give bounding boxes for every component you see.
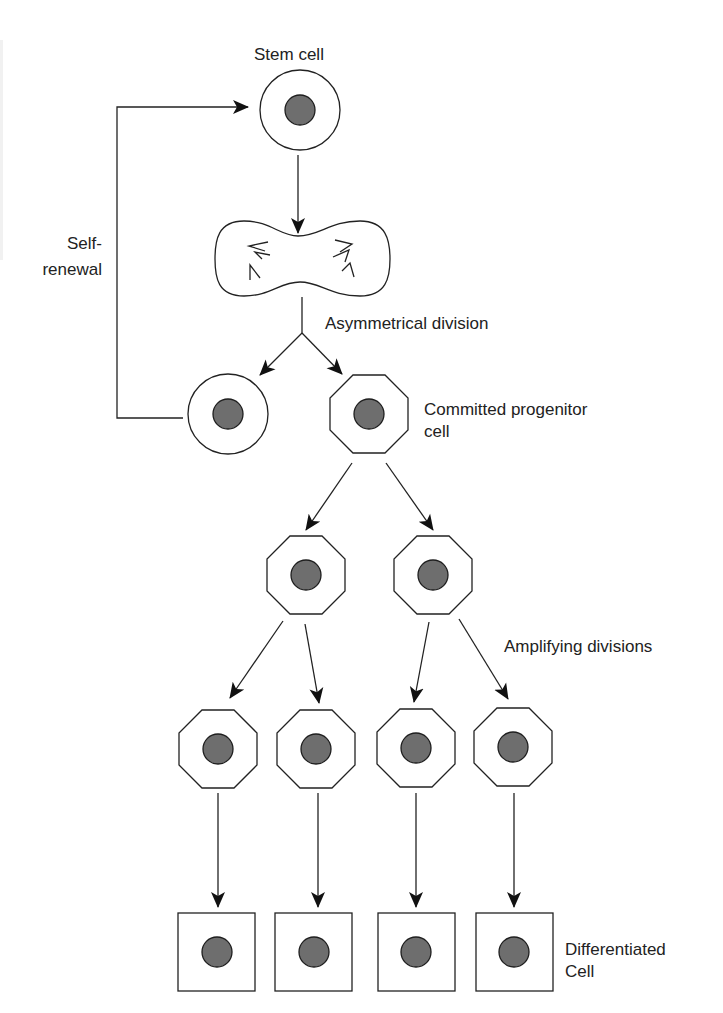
label-self-renewal-line1: Self-	[60, 234, 102, 254]
stem-cell-lineage-diagram	[0, 0, 723, 1013]
arrow-to-progenitor-3c	[414, 622, 429, 702]
arrow-to-progenitor-3b	[305, 624, 319, 703]
nucleus-icon	[499, 937, 529, 967]
nucleus-icon	[401, 733, 431, 763]
differentiated-b-node	[275, 913, 352, 991]
renewed-stem-cell-node	[188, 374, 268, 454]
stem-cell-node	[260, 70, 340, 150]
nucleus-icon	[401, 937, 431, 967]
label-asymmetrical-division: Asymmetrical division	[325, 314, 488, 334]
differentiated-a-node	[178, 913, 255, 991]
progenitor-3a-node	[179, 710, 257, 788]
label-committed-progenitor-line2: cell	[424, 422, 450, 442]
label-self-renewal-line2: renewal	[29, 260, 102, 280]
nucleus-icon	[498, 732, 528, 762]
committed-progenitor-node	[330, 375, 408, 453]
progenitor-3c-node	[377, 709, 455, 787]
arrow-to-progenitor-3a	[230, 621, 283, 698]
nucleus-icon	[213, 399, 243, 429]
label-differentiated-line2: Cell	[565, 962, 594, 982]
arrow-to-committed-progenitor	[302, 333, 342, 374]
progenitor-3b-node	[277, 710, 355, 788]
nucleus-icon	[285, 95, 315, 125]
differentiated-d-node	[476, 913, 553, 991]
label-differentiated-line1: Differentiated	[565, 940, 666, 960]
progenitor-2a-node	[267, 536, 345, 614]
arrow-to-renewed-stem-cell	[260, 333, 302, 375]
dividing-cell-node	[215, 221, 390, 296]
label-committed-progenitor-line1: Committed progenitor	[424, 400, 587, 420]
arrow-to-progenitor-2b	[386, 463, 433, 530]
nucleus-icon	[354, 399, 384, 429]
nucleus-icon	[203, 734, 233, 764]
arrow-to-progenitor-2a	[306, 463, 352, 530]
nucleus-icon	[418, 560, 448, 590]
nucleus-icon	[202, 937, 232, 967]
nucleus-icon	[301, 734, 331, 764]
nucleus-icon	[299, 937, 329, 967]
nucleus-icon	[291, 560, 321, 590]
label-amplifying-divisions: Amplifying divisions	[504, 637, 652, 657]
progenitor-3d-node	[474, 708, 552, 786]
differentiated-c-node	[378, 913, 455, 991]
progenitor-2b-node	[394, 536, 472, 614]
arrow-to-progenitor-3d	[459, 619, 508, 699]
label-stem-cell: Stem cell	[254, 45, 324, 65]
